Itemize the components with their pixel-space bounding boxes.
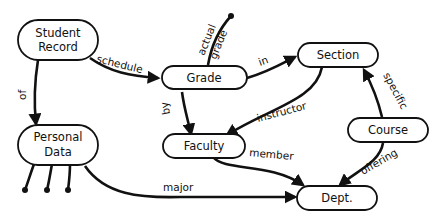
node-label: Record [38, 40, 78, 54]
attr-leg-3 [68, 164, 70, 190]
label-major: major [163, 181, 194, 193]
edge-by [182, 92, 191, 134]
node-dept: Dept. [297, 186, 377, 210]
node-label: Dept. [321, 191, 352, 205]
node-label: Data [44, 145, 71, 159]
node-course: Course [348, 118, 428, 142]
node-label: Grade [186, 71, 221, 85]
node-faculty: Faculty [163, 134, 245, 158]
node-label: Faculty [184, 139, 225, 153]
node-student-record: Student Record [18, 20, 98, 60]
er-diagram: schedule of actual grade in by instructo… [0, 0, 447, 217]
label-offering: offering [358, 146, 399, 177]
label-instructor: instructor [255, 99, 308, 124]
label-specific: specific [381, 70, 410, 111]
edge-in [247, 57, 295, 78]
attribute-dot [22, 187, 28, 193]
node-label: Section [317, 48, 360, 62]
node-section: Section [298, 43, 378, 67]
node-label: Personal [34, 130, 83, 144]
attribute-dot [228, 13, 234, 19]
node-label: Course [368, 123, 408, 137]
attr-leg-1 [25, 164, 34, 190]
label-of: of [16, 90, 28, 100]
label-member: member [249, 146, 295, 162]
label-in: in [257, 53, 270, 68]
edge-of [35, 60, 38, 124]
attribute-dot [65, 187, 71, 193]
edge-specific [364, 70, 382, 117]
node-label: Student [35, 26, 81, 40]
attr-leg-2 [47, 164, 52, 190]
attribute-dot [44, 187, 50, 193]
label-by: by [158, 101, 172, 116]
node-grade: Grade [162, 66, 247, 89]
node-personal-data: Personal Data [18, 125, 98, 165]
